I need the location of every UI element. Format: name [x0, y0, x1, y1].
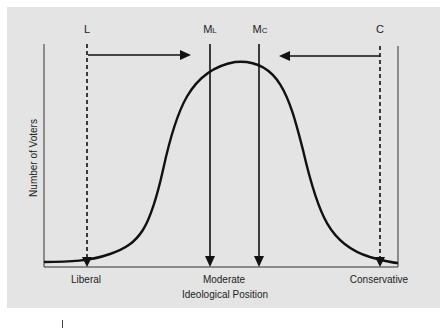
x-category-moderate: Moderate: [203, 274, 245, 285]
y-axis-label: Number of Voters: [28, 119, 39, 197]
marker-label-c: C: [376, 23, 384, 35]
x-category-conservative: Conservative: [350, 274, 408, 285]
moderate-liberal-arrowhead: [205, 256, 215, 267]
stray-tick-mark: [62, 320, 63, 328]
liberal-arrowhead: [82, 257, 92, 267]
marker-label-l: L: [84, 23, 90, 35]
conservative-arrowhead: [375, 257, 385, 267]
voter-distribution-curve: [44, 62, 398, 263]
x-axis-label: Ideological Position: [182, 289, 268, 300]
marker-label-ml: ML: [203, 23, 217, 35]
marker-label-mc: MC: [253, 23, 268, 35]
moderate-conservative-arrowhead: [254, 256, 264, 267]
x-category-liberal: Liberal: [71, 274, 101, 285]
